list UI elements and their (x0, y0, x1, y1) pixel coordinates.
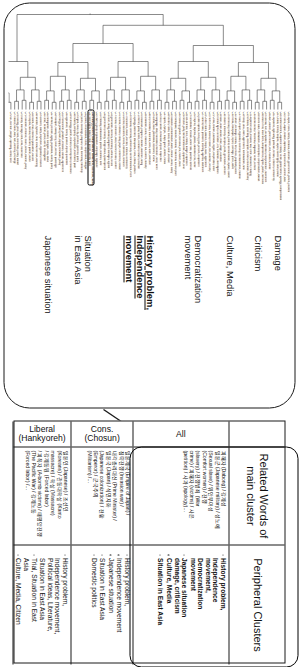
dendrogram-leaf-label: C72 family, marriage, birth, child, hous… (18, 111, 22, 229)
dendrogram-leaf-label: C47 school, curriculum, class, teacher, … (112, 111, 116, 229)
dendrogram-leaf-label: C66 crime, incident, police, arrest, inv… (41, 111, 45, 229)
dendrogram-leaf-label: C34 sports, Olympic, Tokyo, game, athlet… (161, 111, 165, 229)
header-cell-related-words: Related Words of main cluster (229, 447, 284, 545)
figure-page: C01 Japan, Korea, history, textbook, dis… (0, 0, 299, 667)
peripheral-list-all: History problem, Independence movement, … (156, 548, 226, 661)
dendrogram-leaf-label: C71 education, entrance, exam, school, s… (22, 111, 26, 229)
related-word-line: / 강제동원 (Forced labor) (42, 450, 48, 541)
dendrogram-leaf-label: C16 media, newspaper, report, coverage, … (229, 111, 233, 229)
peripheral-list-liberal: History problem, Independence movement, … (13, 548, 68, 661)
related-word-line: (petition) / 사과 (apology)… (181, 450, 187, 541)
dendrogram-leaf-label: C31 earthquake, disaster, tsunami, Fukus… (172, 111, 176, 229)
related-word-line: 피해자 (Dabong) / 강제성 (220, 450, 226, 541)
dendrogram-leaf-label: C57 region, local, city, province, gover… (75, 111, 79, 229)
cluster-label-culture-media: Culture, Media (224, 235, 234, 403)
dendrogram-leaf-label: C40 broadcast, program, channel, audienc… (139, 111, 143, 229)
cluster-label-democratization-movement: Democratization movement (181, 235, 202, 403)
peripheral-cluster-item: Culture, Media (164, 554, 172, 661)
peripheral-cluster-item: Culture, Media, Citizen movement (13, 554, 21, 661)
dendrogram-leaf-label: C67 accident, safety, inspection, regula… (37, 111, 41, 229)
dendrogram-leaf-label: C22 North Korea, nuclear, missile, test,… (206, 111, 210, 229)
dendrogram-leaf-label: C13 treaty, 1965, claim, agreement, norm… (240, 111, 244, 229)
dendrogram-leaf-label: C54 sovereignty, nation, state, people, … (86, 111, 90, 229)
dendrogram-leaf-label: C28 self-defense, force, military, budge… (184, 111, 188, 229)
dendrogram-leaf-label: C30 economy, growth, recession, yen, mar… (176, 111, 180, 229)
dendrogram-leaf-label: C02 Korea, Japan, relation, diplomacy, i… (282, 111, 286, 229)
dendrogram-leaf-label: C14 trade, export, regulation, economy, … (236, 111, 240, 229)
peripheral-cluster-item: Japanese situation (106, 554, 114, 661)
dendrogram-leaf-label: C70 hospital, medical, treatment, patien… (26, 111, 30, 229)
peripheral-list-cons: History problem,Independence movementJap… (90, 548, 130, 661)
peripheral-clusters-all: History problem, Independence movement, … (133, 545, 228, 664)
dendrogram-leaf-label: C55 peace, reconciliation, future, coope… (82, 111, 86, 229)
dendrogram-leaf-label: C61 environment, pollution, emission, cl… (60, 111, 64, 229)
dendrogram-leaf-label: C12 textbook, screening, description, re… (244, 111, 248, 229)
related-word-line: 일본군 (Japanese military) / 성노예 (213, 450, 219, 541)
dendrogram-leaf-label: C03 comfort women, Japanese military, vi… (278, 111, 282, 229)
dendrogram-leaf-label: C23 United States, alliance, troops, bas… (203, 111, 207, 229)
dendrogram-leaf-label: C65 immigration, resident, foreigner, vi… (45, 111, 49, 229)
peripheral-clusters-liberal: History problem, Independence movement, … (13, 545, 70, 664)
dendrogram-leaf-label: C26 emperor, imperial, palace, abdicatio… (191, 111, 195, 229)
dendrogram-leaf-label: C19 labor, union, worker, strike, wage, … (218, 111, 222, 229)
dendrogram-leaf-label: C09 forced labor, mobilization, conscrip… (255, 111, 259, 229)
dendrogram-leaf-label: C59 technology, patent, research, develo… (67, 111, 71, 229)
related-words-all-list: 피해자 (Dabong) / 강제성일본군 (Japanese military… (181, 450, 226, 541)
peripheral-cluster-item: History problem, (122, 554, 130, 661)
dendrogram-leaf-label: C01 Japan, Korea, history, textbook, dis… (285, 111, 289, 229)
related-words-all: 피해자 (Dabong) / 강제성일본군 (Japanese military… (133, 447, 228, 545)
dendrogram-leaf-label: C44 monument, statue, erection, removal,… (124, 111, 128, 229)
dendrogram-leaf-label: C05 Japanese, right-wing, politician, re… (270, 111, 274, 229)
related-word-line: crime) / 피해자 (victims) / 사은 (188, 450, 194, 541)
dendrogram-leaf-label: C63 transport, railway, ferry, route, se… (52, 111, 56, 229)
table-row-all: All 피해자 (Dabong) / 강제성일본군 (Japanese mili… (132, 421, 228, 664)
dendrogram-leaf-label: C74 finance, bank, loan, rate, currency,… (11, 111, 15, 229)
rotated-figure-canvas: C01 Japan, Korea, history, textbook, dis… (0, 0, 299, 667)
peripheral-cluster-item: History problem, Independence movement, … (38, 554, 68, 661)
dendrogram-leaf-label: C15 culture, exchange, drama, film, musi… (233, 111, 237, 229)
related-word-line: (Sexual slave) / 위안부여성 (207, 450, 213, 541)
dendrogram-leaf-label: C08 March First, movement, independence,… (259, 111, 263, 229)
related-word-line: / 피폭자 (A-bomb victims) / 태평양전쟁 (36, 450, 42, 541)
cluster-label-group: Damage Criticism Culture, Media Democrat… (4, 235, 288, 405)
related-word-line: 침략전쟁 (Invasion war) / (117, 450, 123, 541)
dendrogram-leaf-label: C51 embassy, ambassador, protest, summon… (97, 111, 101, 229)
dendrogram-leaf-label: C32 radiation, contamination, water, rel… (169, 111, 173, 229)
header-cell-peripheral-clusters: Peripheral Clusters (229, 545, 284, 664)
peripheral-cluster-item: Situation in East Asia (98, 554, 106, 661)
dendrogram-leaf-label: C62 energy, power, plant, supply, renewa… (56, 111, 60, 229)
related-word-line: 일본인 (Japanese) / 조선인 (62, 450, 68, 541)
related-word-line: massacre) / 학살 (Massacre) (49, 450, 55, 541)
related-word-line: 일본제국 (Empire of Japan) / (124, 450, 130, 541)
cluster-label-criticism: Criticism (252, 235, 262, 403)
dendrogram-leaf-label: C50 government, ministry, foreign affair… (101, 111, 105, 229)
cluster-label-situation-in-east-asia: Situation in East Asia (71, 235, 92, 403)
dendrogram-leaf-label: C07 colonial, rule, occupation, liberati… (263, 111, 267, 229)
row-label-liberal: Liberal (Hankyoreh) (13, 421, 70, 447)
related-word-line: (Forced labor) /… (23, 450, 29, 541)
dendrogram-leaf-label: C42 apology, statement, Murayama, Kono, … (131, 111, 135, 229)
dendrogram-leaf-label: C04 Dokdo, territory, dispute, Japan, so… (274, 111, 278, 229)
table-row-liberal: Liberal (Hankyoreh) 일본인 (Japanese) / 조선인… (12, 421, 70, 664)
dendrogram-leaf-label: C10 atomic bomb, Hiroshima, Nagasaki, vi… (251, 111, 255, 229)
table-header-row: Related Words of main cluster Peripheral… (228, 421, 284, 664)
related-words-cons-list: 일본제국 (Empire of Japan) /침략전쟁 (Invasion w… (85, 450, 130, 541)
dendrogram-leaf-label: C18 student, university, campus, youth, … (221, 111, 225, 229)
dendrogram-leaf-label: C38 art, exhibition, museum, work, artis… (146, 111, 150, 229)
dendrogram-leaf-label: C53 history problem, independence moveme… (90, 111, 94, 229)
cluster-label-damage: Damage (272, 235, 282, 403)
dendrogram-leaf-label: C29 election, party, liberal democratic,… (180, 111, 184, 229)
dendrogram-leaf-label: C36 language, study, translation, litera… (154, 111, 158, 229)
dendrogram-leaf-label: C48 generation, memory, testimony, witne… (109, 111, 113, 229)
related-word-line: (Koreans) / 관동대학살 (Kanto (55, 450, 61, 541)
dendrogram-leaf-label: C17 democracy, citizen, protest, demonst… (225, 111, 229, 229)
dendrogram-leaf-label: C45 archive, document, record, disclosur… (120, 111, 124, 229)
dendrogram-leaf-label: C68 weather, typhoon, heat, snow, foreca… (33, 111, 37, 229)
dendrogram-leaf-label: C21 China, relation, East Asia, region, … (210, 111, 214, 229)
summary-table: Related Words of main cluster Peripheral… (13, 420, 285, 663)
dendrogram-leaf-label: C24 summit, talks, president, meeting, a… (199, 111, 203, 229)
row-label-all-text: All (176, 429, 186, 438)
table-row-cons: Cons. (Chosun) 일본제국 (Empire of Japan) /침… (70, 421, 132, 664)
peripheral-cluster-item: History problem, Independence movement, … (188, 554, 226, 661)
dendrogram-panel: C01 Japan, Korea, history, textbook, dis… (3, 2, 295, 408)
